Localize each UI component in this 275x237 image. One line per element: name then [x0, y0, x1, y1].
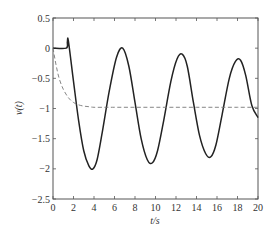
y-tick-label: −0.5 [32, 73, 50, 84]
y-tick-label: −2.5 [32, 194, 50, 205]
x-tick-label: 6 [112, 202, 117, 213]
x-tick-label: 4 [92, 202, 97, 213]
x-tick-label: 18 [233, 202, 243, 213]
y-axis-label: v(t) [13, 100, 25, 115]
x-tick-label: 8 [133, 202, 138, 213]
line-chart: 024681012141618200.50−0.5−1−1.5−2−2.5 t/… [0, 0, 275, 237]
y-tick-label: −1 [39, 103, 50, 114]
y-tick-label: −2 [39, 163, 50, 174]
x-tick-label: 0 [51, 202, 56, 213]
y-tick-label: 0.5 [38, 13, 51, 24]
plot-area [53, 18, 258, 199]
x-tick-label: 14 [192, 202, 202, 213]
x-tick-label: 20 [253, 202, 263, 213]
y-tick-label: −1.5 [32, 133, 50, 144]
y-tick-label: 0 [45, 43, 50, 54]
x-tick-label: 10 [151, 202, 161, 213]
x-tick-label: 12 [171, 202, 181, 213]
x-tick-label: 16 [212, 202, 222, 213]
x-tick-label: 2 [71, 202, 76, 213]
x-axis-label: t/s [150, 215, 160, 226]
